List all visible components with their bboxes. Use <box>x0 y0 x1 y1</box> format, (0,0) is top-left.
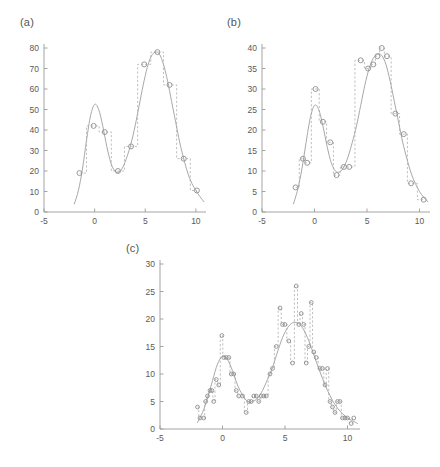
y-tick-label: 20 <box>146 314 156 324</box>
panel-a: (a) 01020304050607080-50510 <box>0 0 215 235</box>
x-tick-label: 5 <box>283 433 288 443</box>
y-tick-label: 80 <box>30 43 40 53</box>
observed-step-line <box>296 48 424 200</box>
x-tick-label: 5 <box>143 216 148 226</box>
x-tick-label: -5 <box>258 216 266 226</box>
y-tick-label: 10 <box>248 166 258 176</box>
panel-c-label: (c) <box>126 242 139 254</box>
panel-b-plot: 0510152025303540-50510 <box>218 0 440 235</box>
y-tick-label: 30 <box>248 84 258 94</box>
y-tick-label: 15 <box>248 146 258 156</box>
y-tick-label: 40 <box>248 43 258 53</box>
y-tick-label: 25 <box>146 287 156 297</box>
panel-c: (c) 051015202530-50510 <box>110 236 390 467</box>
y-tick-label: 20 <box>30 166 40 176</box>
x-tick-label: 10 <box>343 433 353 443</box>
y-tick-label: 20 <box>248 125 258 135</box>
y-tick-label: 30 <box>30 146 40 156</box>
y-tick-label: 40 <box>30 125 40 135</box>
y-tick-label: 5 <box>150 397 155 407</box>
panel-a-label: (a) <box>20 16 34 28</box>
y-tick-label: 25 <box>248 105 258 115</box>
y-tick-label: 10 <box>146 369 156 379</box>
x-tick-label: 0 <box>312 216 317 226</box>
intensity-curve <box>74 52 204 204</box>
y-tick-label: 50 <box>30 105 40 115</box>
y-tick-label: 0 <box>252 207 257 217</box>
observed-step-line <box>198 286 354 424</box>
y-tick-label: 60 <box>30 84 40 94</box>
y-tick-label: 0 <box>150 424 155 434</box>
panel-a-plot: 01020304050607080-50510 <box>0 0 215 235</box>
y-tick-label: 10 <box>30 187 40 197</box>
panel-b-label: (b) <box>227 16 241 28</box>
panel-b: (b) 0510152025303540-50510 <box>218 0 440 235</box>
x-tick-label: 10 <box>415 216 425 226</box>
x-tick-label: -5 <box>156 433 164 443</box>
x-tick-label: 10 <box>191 216 201 226</box>
observed-step-line <box>79 52 196 190</box>
y-tick-label: 70 <box>30 64 40 74</box>
y-tick-label: 30 <box>146 259 156 269</box>
y-tick-label: 35 <box>248 64 258 74</box>
x-tick-label: -5 <box>40 216 48 226</box>
panel-c-plot: 051015202530-50510 <box>110 236 390 467</box>
x-tick-label: 5 <box>365 216 370 226</box>
x-tick-label: 0 <box>220 433 225 443</box>
x-tick-label: 0 <box>92 216 97 226</box>
y-tick-label: 15 <box>146 342 156 352</box>
y-tick-label: 5 <box>252 187 257 197</box>
y-tick-label: 0 <box>34 207 39 217</box>
